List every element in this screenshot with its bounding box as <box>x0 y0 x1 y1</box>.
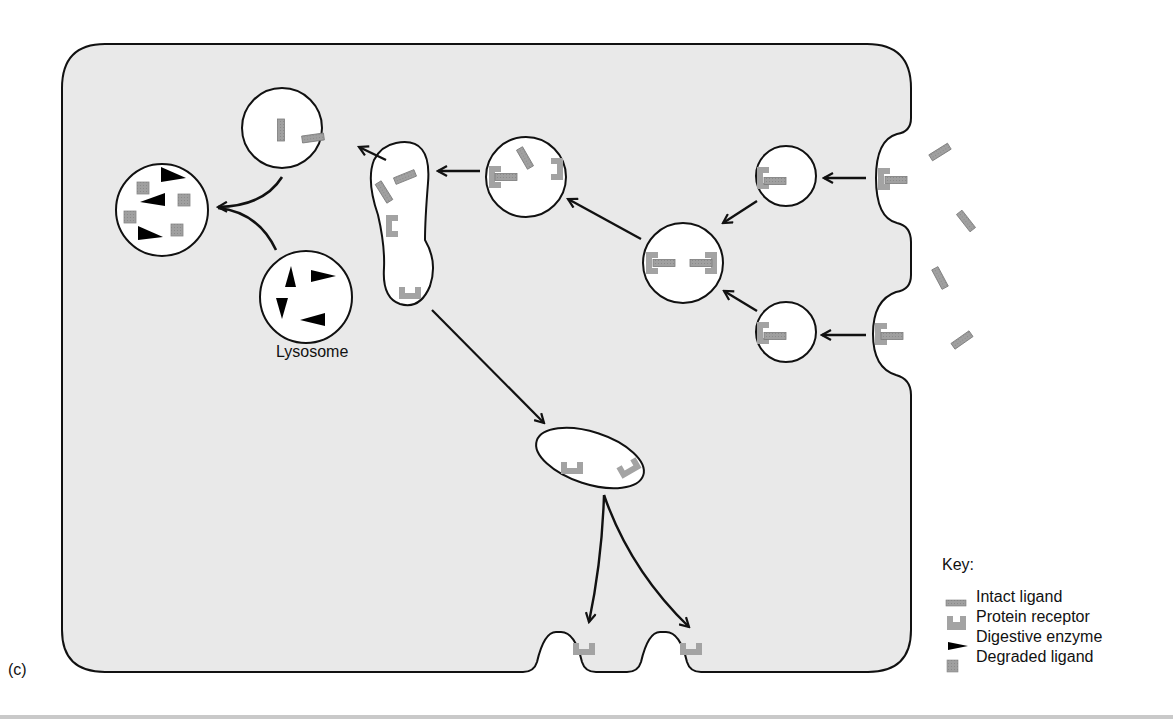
legend-label: Intact ligand <box>976 588 1062 606</box>
lysosome <box>260 251 352 343</box>
legend-label: Digestive enzyme <box>976 628 1102 646</box>
fused-vesicle <box>643 223 723 303</box>
legend-label: Protein receptor <box>976 608 1090 626</box>
legend: Key: Intact ligand Protein receptor Dige… <box>942 556 1162 667</box>
legend-item-protein-receptor: Protein receptor <box>976 607 1162 627</box>
legend-item-digestive-enzyme: Digestive enzyme <box>976 627 1162 647</box>
vesicle-upper <box>756 146 816 206</box>
panel-label: (c) <box>8 661 27 679</box>
extracellular-ligands <box>929 143 976 349</box>
legend-item-intact-ligand: Intact ligand <box>976 587 1162 607</box>
legend-item-degraded-ligand: Degraded ligand <box>976 647 1162 667</box>
legend-label: Degraded ligand <box>976 648 1093 666</box>
coated-pit-upper <box>878 168 907 190</box>
endosome <box>486 137 566 217</box>
legend-title: Key: <box>942 556 1162 574</box>
secondary-lysosome <box>116 164 208 256</box>
vesicle-lower <box>756 302 816 362</box>
page-divider <box>0 715 1173 719</box>
coated-pit-lower <box>875 323 903 345</box>
lysosome-label: Lysosome <box>276 343 348 361</box>
